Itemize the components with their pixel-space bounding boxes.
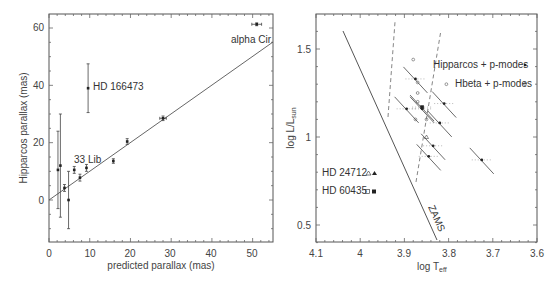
- filled-triangle-icon: [372, 171, 377, 175]
- annotation-33-lib: 33 Lib: [74, 154, 102, 165]
- data-point: [78, 174, 81, 181]
- x-tick-label: 30: [164, 248, 176, 259]
- y-tick-label: 0.5: [297, 220, 311, 231]
- y-axis-label: Hipparcos parallax (mas): [18, 72, 29, 183]
- data-point: [252, 23, 262, 26]
- y-tick-label: 40: [33, 80, 45, 91]
- annotation-hd166473: HD 166473: [93, 81, 144, 92]
- data-point: [56, 131, 59, 208]
- x-axis-label: predicted parallax (mas): [107, 260, 214, 271]
- open-data-point: [412, 58, 415, 61]
- annotation-alpha-cir: alpha Cir: [231, 34, 272, 45]
- y-tick-label: 0: [38, 195, 44, 206]
- data-point: [160, 116, 167, 121]
- open-data-point: [425, 135, 429, 139]
- x-tick-label: 20: [124, 248, 136, 259]
- figure: 0 10 20 30 40 50 0 20 40 60 predicted pa…: [0, 0, 560, 281]
- legend-hipparcos: Hipparcos + p-modes: [433, 59, 528, 70]
- filled-data-point: [470, 148, 494, 174]
- data-point: [87, 64, 90, 113]
- filled-square-icon: [372, 190, 376, 194]
- filled-data-point: [417, 144, 441, 170]
- filled-data-point: [403, 67, 427, 93]
- open-data-point: [445, 83, 448, 86]
- x-tick-label: 4: [357, 248, 363, 259]
- x-tick-label: 40: [205, 248, 217, 259]
- filled-data-point: [432, 92, 456, 118]
- fit-line: [49, 42, 273, 200]
- left-plot-frame: [49, 14, 273, 242]
- left-chart: 0 10 20 30 40 50 0 20 40 60 predicted pa…: [18, 14, 273, 271]
- zams-label: ZAMS: [426, 203, 447, 233]
- x-tick-label: 3.9: [397, 248, 411, 259]
- right-chart: 4.1 4 3.9 3.8 3.7 3.6 0.5 1 1.5 log Teff…: [285, 14, 544, 273]
- x-axis-label: log Teff: [417, 261, 447, 273]
- data-point: [112, 159, 115, 164]
- x-tick-label: 4.1: [309, 248, 323, 259]
- open-data-point: [416, 92, 419, 95]
- filled-data-point: [428, 111, 452, 137]
- data-point: [85, 164, 88, 171]
- legend-filled-circle-icon: [524, 64, 527, 67]
- strip-blue-edge: [388, 22, 395, 117]
- y-tick-label: 1.5: [297, 44, 311, 55]
- x-tick-label: 3.6: [530, 248, 544, 259]
- legend-hd60435: HD 60435: [322, 185, 367, 196]
- data-point: [67, 171, 70, 228]
- data-point: [59, 114, 62, 217]
- data-point: [73, 166, 76, 173]
- left-data-points: [56, 23, 261, 229]
- x-tick-label: 3.8: [442, 248, 456, 259]
- data-point: [126, 139, 129, 145]
- y-tick-label: 60: [33, 22, 45, 33]
- left-ticks: [49, 14, 273, 242]
- x-tick-label: 0: [46, 248, 52, 259]
- x-tick-label: 10: [84, 248, 96, 259]
- x-tick-label: 50: [246, 248, 258, 259]
- legend-hd24712: HD 24712: [322, 167, 367, 178]
- filled-data-point: [410, 97, 434, 123]
- x-tick-label: 3.7: [486, 248, 500, 259]
- right-data-points: [395, 58, 494, 174]
- y-tick-label: 1: [305, 132, 311, 143]
- y-tick-label: 20: [33, 137, 45, 148]
- y-axis-label: log L/Lsun: [285, 107, 297, 148]
- legend-hbeta: Hbeta + p-modes: [455, 78, 532, 89]
